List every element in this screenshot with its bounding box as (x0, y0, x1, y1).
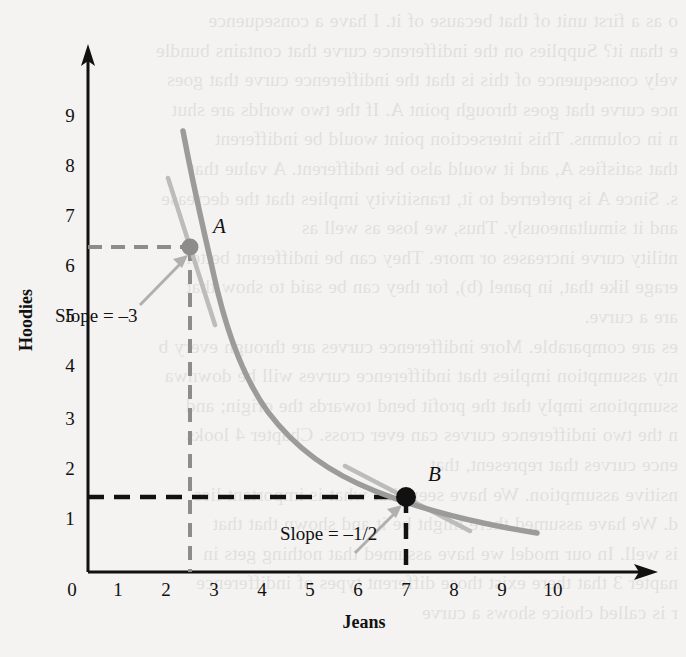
y-tick-label-2: 2 (65, 458, 75, 479)
indifference-curve-figure: o as a first unit of that because of it.… (0, 0, 686, 657)
point-a-marker (182, 239, 199, 256)
y-tick-label-3: 3 (65, 408, 75, 429)
x-tick-label-1: 1 (113, 579, 123, 600)
slope-a-label: Slope = –3 (55, 305, 138, 326)
x-tick-label-3: 3 (209, 579, 219, 600)
x-tick-label-6: 6 (353, 579, 363, 600)
x-tick-label-10: 10 (544, 579, 563, 600)
chart-svg: 0 1 2 3 4 5 6 7 8 9 10 1 2 3 4 5 6 7 8 9… (0, 0, 686, 657)
y-tick-label-9: 9 (65, 105, 75, 126)
y-tick-label-1: 1 (65, 508, 75, 529)
point-b-marker (396, 487, 416, 507)
y-tick-label-6: 6 (65, 255, 75, 276)
slope-a-callout-arrow (140, 255, 188, 305)
x-tick-label-4: 4 (257, 579, 267, 600)
x-tick-label-2: 2 (161, 579, 171, 600)
slope-b-label: Slope = –1/2 (280, 523, 377, 544)
x-axis-title: Jeans (342, 612, 385, 632)
x-tick-label-5: 5 (305, 579, 315, 600)
x-tick-label-7: 7 (401, 579, 411, 600)
x-tick-label-8: 8 (449, 579, 459, 600)
y-tick-label-8: 8 (65, 155, 75, 176)
y-tick-label-7: 7 (65, 205, 75, 226)
y-axis-title: Hoodies (16, 289, 36, 351)
x-tick-label-0: 0 (67, 579, 77, 600)
point-a-label: A (211, 214, 226, 238)
point-b-label: B (428, 462, 441, 486)
x-tick-label-9: 9 (497, 579, 507, 600)
y-tick-label-4: 4 (65, 355, 75, 376)
